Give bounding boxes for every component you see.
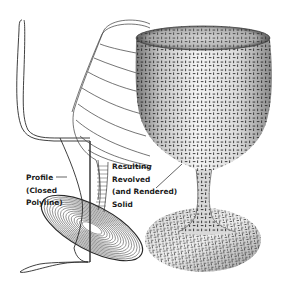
solid-label-line-4: Solid [112,199,177,212]
solid-label-line-2: Revolved [112,174,177,187]
profile-label: Profile (Closed Polyline) [26,172,63,210]
solid-label-line-3: (and Rendered) [112,186,177,199]
solid-label: Resulting Revolved (and Rendered) Solid [112,161,177,211]
profile-label-line-3: Polyline) [26,197,63,210]
profile-label-line-1: Profile [26,172,63,185]
profile-label-line-2: (Closed [26,185,63,198]
wireframe-stem-lines [96,166,108,206]
solid-label-line-1: Resulting [112,161,177,174]
goblet-illustration [0,0,289,282]
rendered-solid [130,20,280,280]
